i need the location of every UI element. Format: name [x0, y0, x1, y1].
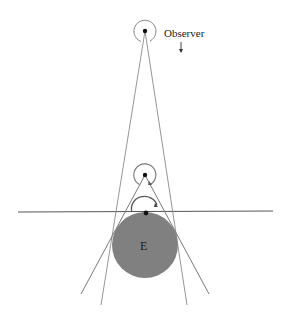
down-arrow-icon [179, 42, 183, 53]
observer-mid-dot [143, 173, 147, 177]
earth-label: E [140, 239, 147, 253]
observer-surface [131, 196, 158, 215]
observer-mid [134, 164, 156, 185]
view-arc-surface [131, 196, 157, 212]
observer-high-dot [143, 29, 147, 33]
observer-surface-dot [144, 211, 149, 216]
observer-label: Observer [164, 27, 205, 39]
observer-high [134, 20, 156, 41]
horizon-diagram: E Observer [0, 0, 285, 321]
